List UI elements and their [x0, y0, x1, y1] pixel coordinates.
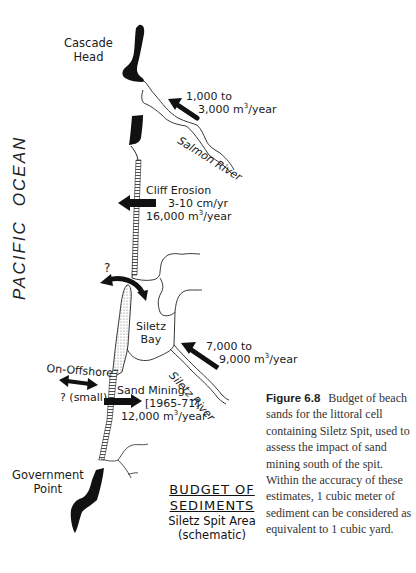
headland-mid — [129, 115, 143, 145]
south-cliff-hatch — [99, 370, 118, 460]
budget-title-block: BUDGET OF SEDIMENTS Siletz Spit Area (sc… — [152, 482, 272, 542]
creek — [101, 444, 148, 461]
sand-mining-label: Sand Mining [1965-71] 12,000 m3/year — [117, 384, 206, 423]
pacific-ocean-label: PACIFICOCEAN — [10, 136, 30, 300]
budget-title-line1: BUDGET OF — [152, 482, 272, 498]
bay-exchange-label: ? — [104, 262, 110, 275]
budget-subtitle-line2: (schematic) — [152, 528, 272, 542]
cliff-hatch — [132, 160, 141, 275]
bay-north-shore — [132, 254, 200, 281]
salmon-flow-label: 1,000 to 3,000 m3/year — [186, 90, 276, 116]
figure-caption: Figure 6.8 Budget of beach sands for the… — [266, 390, 414, 538]
figure-label: Figure 6.8 — [266, 392, 320, 404]
siletz-bay-shoreline — [158, 278, 202, 316]
cliff-erosion-label: Cliff Erosion 3-10 cm/yr 16,000 m3/year — [146, 184, 231, 223]
budget-subtitle-line1: Siletz Spit Area — [152, 514, 272, 528]
siletz-bay-label: Siletz Bay — [136, 320, 166, 346]
siletz-flow-label: 7,000 to 9,000 m3/year — [206, 340, 297, 366]
budget-title-line2: SEDIMENTS — [152, 498, 272, 514]
siletz-spit — [112, 285, 131, 378]
government-point-label: Government Point — [12, 468, 84, 496]
on-offshore-value: ? (small) — [60, 391, 107, 404]
caption-text: Budget of beach sands for the littoral c… — [266, 391, 411, 536]
cascade-head-headland — [122, 25, 144, 82]
cascade-head-label: Cascade Head — [64, 36, 113, 64]
